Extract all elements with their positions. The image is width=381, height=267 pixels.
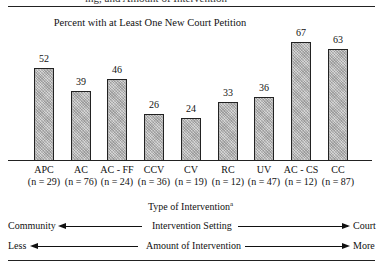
category-name: AC - CS: [281, 164, 321, 176]
category-name: APC: [24, 164, 64, 176]
bar: [254, 97, 274, 161]
category-name: CC: [318, 164, 358, 176]
category-name: CV: [171, 164, 211, 176]
scale-right-label: More: [353, 240, 375, 251]
chart-title: Percent with at Least One New Court Peti…: [0, 17, 300, 28]
bar-value-label: 26: [139, 99, 169, 110]
bar-value-label: 52: [29, 53, 59, 64]
scale-left-label: Less: [8, 240, 26, 251]
cut-off-caption: ing, and Amount of Intervention: [85, 0, 227, 4]
top-rule: [8, 6, 375, 7]
category-label: CC(n = 87): [318, 164, 358, 188]
arrow-right-icon: [342, 243, 350, 249]
category-name: AC: [61, 164, 101, 176]
bar-value-label: 39: [66, 76, 96, 87]
x-axis-label-text: Type of Intervention: [148, 201, 230, 212]
bar: [34, 68, 54, 161]
amount-of-intervention-scale: Less Amount of Intervention More: [0, 240, 381, 254]
bar: [328, 49, 348, 161]
bar: [144, 114, 164, 161]
bar-value-label: 33: [213, 87, 243, 98]
bar: [107, 79, 127, 161]
category-name: UV: [244, 164, 284, 176]
bar: [181, 118, 201, 161]
scale-left-label: Community: [8, 220, 56, 231]
bar-value-label: 36: [249, 82, 279, 93]
arrow-line: [238, 226, 348, 227]
bar: [218, 102, 238, 161]
category-name: AC - FF: [97, 164, 137, 176]
scale-right-label: Court: [353, 220, 376, 231]
category-name: RC: [208, 164, 248, 176]
footnote-marker: a: [230, 200, 233, 208]
bar-value-label: 46: [102, 64, 132, 75]
intervention-setting-scale: Community Intervention Setting Court: [0, 220, 381, 234]
sample-size: (n = 87): [314, 176, 362, 188]
bar: [291, 42, 311, 161]
arrow-line: [62, 226, 142, 227]
scale-center-label: Intervention Setting: [152, 220, 232, 231]
x-axis-label: Type of Interventiona: [0, 200, 381, 212]
bottom-rule: [8, 260, 375, 261]
arrow-line: [34, 246, 138, 247]
arrow-line: [245, 246, 347, 247]
bar: [71, 91, 91, 161]
scale-center-label: Amount of Intervention: [146, 240, 241, 251]
category-name: CCV: [134, 164, 174, 176]
bar-value-label: 63: [323, 34, 353, 45]
arrow-right-icon: [342, 223, 350, 229]
bar-value-label: 24: [176, 103, 206, 114]
bar-value-label: 67: [286, 27, 316, 38]
